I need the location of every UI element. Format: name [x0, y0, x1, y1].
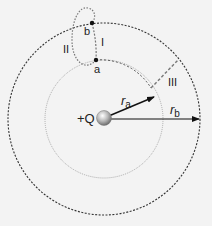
diagram-canvas: +Q a b I II III ra rb — [0, 0, 212, 226]
point-a-dot — [94, 58, 98, 62]
path-3-label: III — [168, 76, 177, 88]
inner-arc-a-to-path3 — [96, 60, 151, 88]
point-a-label: a — [94, 63, 101, 75]
radius-a-label: ra — [121, 93, 131, 110]
path-2-label: II — [63, 43, 69, 55]
charge-sphere-icon — [97, 111, 112, 126]
path-1-line — [92, 23, 96, 60]
point-b-label: b — [84, 25, 90, 37]
point-b-dot — [90, 21, 94, 25]
electric-potential-diagram: +Q a b I II III ra rb — [0, 0, 212, 226]
charge-label: +Q — [77, 111, 95, 126]
radius-b-label: rb — [170, 102, 180, 119]
path-1-label: I — [101, 36, 104, 48]
